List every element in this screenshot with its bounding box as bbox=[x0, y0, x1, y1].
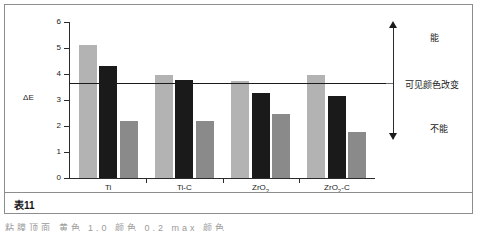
chart-plot-area: ΔE 0123456 TiTi-CZrO2ZrO2-C 能 可见颜色改变 不能 bbox=[5, 5, 472, 192]
bar bbox=[175, 80, 193, 178]
bar bbox=[79, 45, 97, 178]
cut-off-body-text: 粘膜顶面 黄色 1.0 颜色 0.2 max 颜色 bbox=[5, 221, 305, 231]
y-axis-title: ΔE bbox=[23, 93, 34, 102]
y-tick-label: 4 bbox=[39, 69, 61, 78]
figure-caption: 表11 bbox=[14, 197, 35, 212]
bar bbox=[155, 75, 173, 178]
group-separator-tick bbox=[299, 179, 300, 183]
bar bbox=[231, 81, 249, 179]
arrow-up-icon bbox=[389, 21, 397, 28]
bar bbox=[120, 121, 138, 178]
bar bbox=[328, 96, 346, 178]
group-separator-tick bbox=[223, 179, 224, 183]
bar bbox=[307, 75, 325, 178]
caption-divider bbox=[5, 192, 472, 193]
arrow-down-icon bbox=[389, 133, 397, 140]
bar bbox=[252, 93, 270, 178]
x-category-label: Ti-C bbox=[177, 183, 192, 192]
y-tick bbox=[64, 178, 70, 179]
x-category-label: Ti bbox=[105, 183, 111, 192]
y-tick-label: 0 bbox=[39, 173, 61, 182]
y-tick-label: 1 bbox=[39, 147, 61, 156]
bar bbox=[348, 132, 366, 178]
bar bbox=[272, 114, 290, 178]
arrow-mid-tick bbox=[386, 83, 393, 84]
y-tick-label: 6 bbox=[39, 17, 61, 26]
y-tick-label: 2 bbox=[39, 121, 61, 130]
y-tick-label: 3 bbox=[39, 95, 61, 104]
range-arrow-line bbox=[393, 27, 394, 139]
group-separator-tick bbox=[146, 179, 147, 183]
annotation-threshold: 可见颜色改变 bbox=[405, 78, 459, 91]
annotation-above-threshold: 能 bbox=[430, 31, 439, 44]
threshold-line bbox=[69, 83, 388, 84]
bars-layer bbox=[70, 22, 375, 178]
figure-frame: ΔE 0123456 TiTi-CZrO2ZrO2-C 能 可见颜色改变 不能 … bbox=[4, 4, 473, 214]
annotation-below-threshold: 不能 bbox=[430, 122, 448, 135]
y-tick-label: 5 bbox=[39, 43, 61, 52]
bar bbox=[196, 121, 214, 178]
